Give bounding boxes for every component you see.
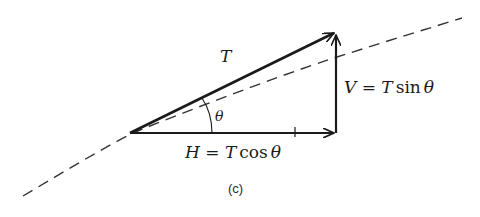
- horizontal-equation: H = Tcosθ: [184, 142, 281, 162]
- tension-vector-arrow: [130, 33, 334, 133]
- force-triangle-diagram: T θ H = Tcosθ V = Tsinθ (c): [0, 0, 480, 217]
- figure-caption: (c): [228, 181, 243, 196]
- vertical-equation: V = Tsinθ: [344, 77, 434, 97]
- dashed-cable-curve: [23, 18, 462, 196]
- angle-label: θ: [215, 108, 224, 124]
- tension-label: T: [220, 46, 233, 66]
